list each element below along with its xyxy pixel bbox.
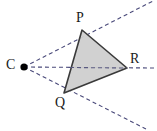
vertex-label-p: P (76, 11, 84, 25)
geometry-figure: P Q R C (0, 0, 157, 131)
vertex-label-q: Q (55, 96, 65, 110)
point-c-dot (20, 63, 27, 70)
vertex-label-c: C (6, 58, 15, 72)
triangle-pqr (64, 30, 127, 93)
vertex-label-r: R (130, 52, 139, 66)
